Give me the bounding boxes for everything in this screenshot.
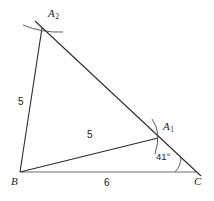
point-label-a1: A1 [163,121,173,132]
point-label-a2-letter: A [48,7,55,19]
compass-arc-at-a1 [152,119,158,154]
angle-label-c: 41° [156,152,170,162]
geometry-diagram: B C A1 A2 5 5 6 41° [0,0,214,201]
length-label-bc: 6 [104,178,110,188]
point-label-a2: A2 [48,8,58,19]
angle-arc-at-c [175,157,181,172]
vertex-label-b: B [11,176,18,187]
point-label-a2-subscript: 2 [55,12,59,21]
point-label-a1-subscript: 1 [170,125,174,134]
length-label-b-a1: 5 [87,130,93,140]
point-label-a1-letter: A [163,120,170,132]
diagram-canvas [0,0,214,201]
ray-c-through-a1-a2 [35,21,201,176]
segment-b-a1 [20,138,158,172]
length-label-b-a2: 5 [18,97,24,107]
vertex-label-c: C [194,176,201,187]
